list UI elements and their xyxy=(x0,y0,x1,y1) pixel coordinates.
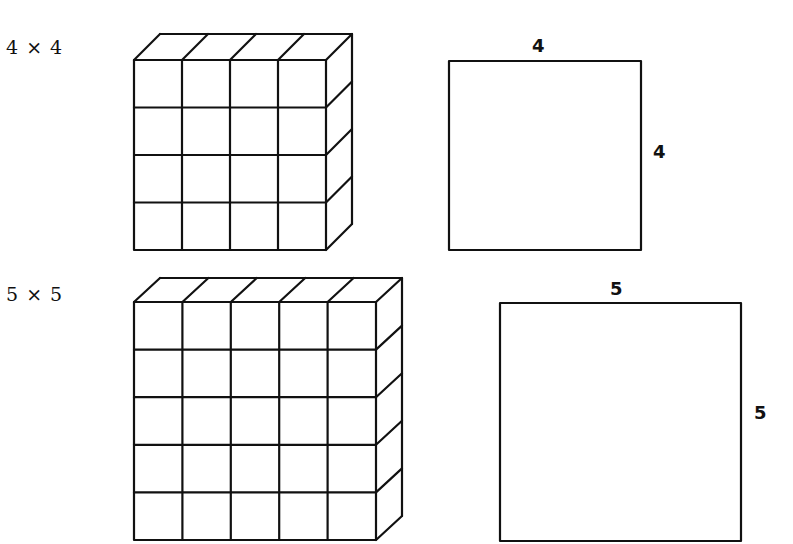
side-diagonal xyxy=(376,516,402,540)
side-diagonal xyxy=(326,82,352,108)
area-square-five xyxy=(500,303,741,541)
front-face-five xyxy=(134,302,376,540)
top-diagonal xyxy=(376,278,402,302)
grid-drawing xyxy=(0,0,793,544)
top-diagonal xyxy=(134,34,160,60)
top-diagonal xyxy=(134,278,160,302)
side-diagonal xyxy=(376,468,402,492)
top-diagonal xyxy=(230,34,256,60)
top-diagonal xyxy=(278,34,304,60)
top-diagonal xyxy=(326,34,352,60)
side-diagonal xyxy=(326,224,352,250)
square-5-side-label: 5 xyxy=(754,402,767,423)
square-4-top-label: 4 xyxy=(532,35,545,56)
square-5-top-label: 5 xyxy=(610,278,623,299)
side-diagonal xyxy=(376,421,402,445)
top-diagonal xyxy=(279,278,305,302)
square-4-side-label: 4 xyxy=(653,141,666,162)
top-diagonal xyxy=(182,278,208,302)
top-diagonal xyxy=(328,278,354,302)
side-diagonal xyxy=(326,177,352,203)
side-diagonal xyxy=(376,326,402,350)
area-square-four xyxy=(449,61,641,250)
side-diagonal xyxy=(326,129,352,155)
top-diagonal xyxy=(182,34,208,60)
top-diagonal xyxy=(231,278,257,302)
side-diagonal xyxy=(376,373,402,397)
